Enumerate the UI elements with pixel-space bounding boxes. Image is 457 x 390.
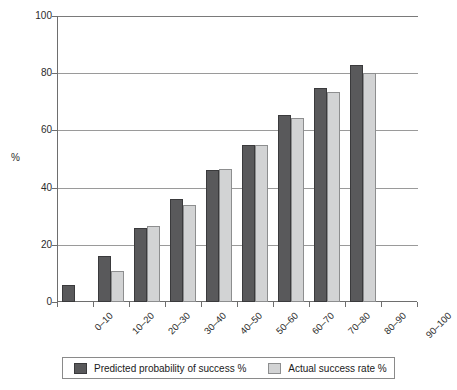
actual-bar-80-90: [363, 73, 376, 302]
y-tick-label-40: 40: [18, 182, 52, 193]
bar-group-0-10: [57, 16, 93, 302]
y-tick-label-20: 20: [18, 239, 52, 250]
actual-bar-20-30: [147, 226, 160, 302]
legend-entry-predicted: Predicted probability of success %: [74, 358, 246, 378]
legend-label-predicted: Predicted probability of success %: [94, 363, 246, 374]
actual-bar-40-50: [219, 169, 232, 302]
y-tick-label-100: 100: [18, 10, 52, 21]
predicted-bar-70-80: [314, 88, 327, 303]
bar-group-50-60: [237, 16, 273, 302]
x-tick-mark-7: [309, 302, 310, 307]
x-tick-mark-0: [57, 302, 58, 307]
bar-group-90-100: [381, 16, 417, 302]
bar-group-10-20: [93, 16, 129, 302]
chart-legend: Predicted probability of success % Actua…: [62, 357, 395, 379]
predicted-bar-0-10: [62, 285, 75, 302]
actual-bar-60-70: [291, 118, 304, 303]
predicted-bar-50-60: [242, 145, 255, 302]
bar-chart: % 100 80 60 40 20 0: [0, 0, 457, 390]
predicted-bar-30-40: [170, 199, 183, 302]
actual-bar-50-60: [255, 145, 268, 302]
bar-group-40-50: [201, 16, 237, 302]
bar-group-30-40: [165, 16, 201, 302]
predicted-bar-40-50: [206, 170, 219, 302]
actual-bar-10-20: [111, 271, 124, 303]
x-tick-mark-4: [201, 302, 202, 307]
predicted-bar-60-70: [278, 115, 291, 302]
x-tick-mark-9: [381, 302, 382, 307]
y-tick-label-80: 80: [18, 67, 52, 78]
predicted-swatch-icon: [74, 363, 87, 374]
actual-bar-30-40: [183, 205, 196, 302]
x-tick-mark-8: [345, 302, 346, 307]
bar-group-60-70: [273, 16, 309, 302]
actual-bar-70-80: [327, 92, 340, 302]
x-tick-mark-3: [165, 302, 166, 307]
legend-label-actual: Actual success rate %: [288, 363, 386, 374]
bar-group-80-90: [345, 16, 381, 302]
x-tick-mark-1: [93, 302, 94, 307]
x-tick-mark-6: [273, 302, 274, 307]
actual-swatch-icon: [268, 363, 281, 374]
bar-group-70-80: [309, 16, 345, 302]
x-tick-mark-10: [417, 302, 418, 307]
legend-entry-actual: Actual success rate %: [268, 358, 386, 378]
bars-layer: [57, 16, 417, 302]
bar-group-20-30: [129, 16, 165, 302]
predicted-bar-20-30: [134, 228, 147, 302]
predicted-bar-10-20: [98, 256, 111, 302]
x-tick-mark-2: [129, 302, 130, 307]
predicted-bar-80-90: [350, 65, 363, 302]
x-tick-mark-5: [237, 302, 238, 307]
y-tick-label-60: 60: [18, 124, 52, 135]
y-tick-label-0: 0: [18, 296, 52, 307]
